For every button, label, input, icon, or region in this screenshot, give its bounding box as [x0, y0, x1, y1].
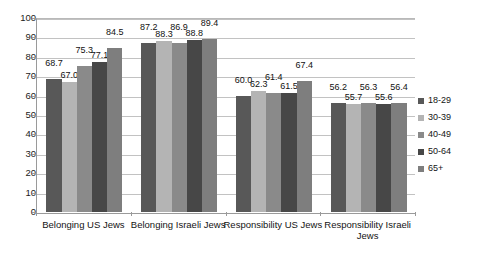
- bar-group: 87.288.386.988.889.4: [141, 19, 217, 212]
- x-axis-tick-mark: [226, 212, 227, 216]
- legend-label: 65+: [428, 164, 443, 173]
- bar-chart: 1009080706050403020100 68.767.075.377.18…: [0, 0, 479, 263]
- bar-fill: [281, 93, 296, 212]
- legend-item-18-29[interactable]: 18-29: [418, 92, 479, 109]
- x-axis-category-label: Responsibility US Jews: [222, 219, 325, 230]
- legend-swatch-icon: [418, 98, 424, 104]
- bar-value-label: 88.8: [186, 29, 204, 38]
- legend-item-50-64[interactable]: 50-64: [418, 143, 479, 160]
- bar-fill: [236, 96, 251, 212]
- legend-item-65[interactable]: 65+: [418, 160, 479, 177]
- x-axis-category-label: Belonging US Jews: [32, 219, 135, 230]
- bar-fill: [46, 79, 61, 212]
- bar-group: 56.255.756.355.656.4: [331, 19, 407, 212]
- bar-value-label: 84.5: [106, 28, 124, 37]
- legend-swatch-icon: [418, 115, 424, 121]
- bar-fill: [62, 82, 77, 212]
- chart-legend: 18-2930-3940-4950-6465+: [418, 92, 479, 177]
- bar-fill: [92, 62, 107, 212]
- legend-label: 18-29: [428, 96, 451, 105]
- bar-value-label: 68.7: [45, 59, 63, 68]
- bar-group: 60.062.361.461.567.4: [236, 19, 312, 212]
- bar-value-label: 55.6: [375, 93, 393, 102]
- bar-value-label: 56.2: [329, 83, 347, 92]
- bar-fill: [107, 48, 122, 212]
- bar-group: 68.767.075.377.184.5: [46, 19, 122, 212]
- bar-fill: [297, 81, 312, 212]
- legend-item-30-39[interactable]: 30-39: [418, 109, 479, 126]
- legend-label: 30-39: [428, 113, 451, 122]
- legend-label: 50-64: [428, 147, 451, 156]
- bar-value-label: 56.4: [390, 83, 408, 92]
- bar-fill: [391, 103, 406, 212]
- bar-fill: [251, 91, 266, 212]
- bar-fill: [77, 66, 92, 212]
- legend-swatch-icon: [418, 149, 424, 155]
- x-axis-tick-mark: [131, 212, 132, 216]
- bar-fill: [266, 93, 281, 212]
- x-axis-category-label: Responsibility Israeli Jews: [316, 219, 419, 241]
- bar-fill: [187, 40, 202, 212]
- plot-area: 68.767.075.377.184.587.288.386.988.889.4…: [36, 18, 415, 212]
- legend-swatch-icon: [418, 132, 424, 138]
- bar-value-label: 55.7: [345, 93, 363, 102]
- bar-value-label: 89.4: [201, 19, 219, 28]
- bar-fill: [346, 104, 361, 212]
- bar-value-label: 67.4: [296, 61, 314, 70]
- bar-value-label: 77.1: [91, 51, 109, 60]
- x-axis-category-label: Belonging Israeli Jews: [127, 219, 230, 230]
- bar-fill: [141, 43, 156, 212]
- y-axis: 1009080706050403020100: [0, 18, 36, 212]
- bar-value-label: 61.5: [280, 82, 298, 91]
- bar-fill: [376, 104, 391, 212]
- bar-value-label: 67.0: [60, 71, 78, 80]
- legend-item-40-49[interactable]: 40-49: [418, 126, 479, 143]
- bar-value-label: 56.3: [360, 83, 378, 92]
- x-axis-tick-mark: [320, 212, 321, 216]
- bar-fill: [202, 39, 217, 212]
- bar-fill: [331, 103, 346, 212]
- bar-fill: [172, 43, 187, 212]
- x-axis-tick-mark: [415, 212, 416, 216]
- bar-fill: [156, 41, 171, 212]
- bar-fill: [361, 103, 376, 212]
- x-axis-tick-mark: [36, 212, 37, 216]
- legend-label: 40-49: [428, 130, 451, 139]
- legend-swatch-icon: [418, 166, 424, 172]
